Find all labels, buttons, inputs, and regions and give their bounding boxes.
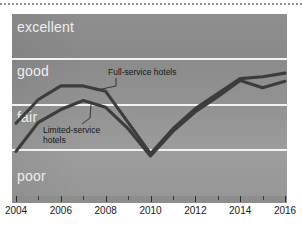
annotation-limited-service-line2: hotels bbox=[43, 136, 100, 146]
x-tick-2011 bbox=[173, 196, 174, 200]
annotation-limited-service: Limited-service hotels bbox=[43, 126, 100, 145]
series-vector-layer bbox=[12, 14, 287, 196]
x-tick-2013 bbox=[218, 196, 219, 200]
x-tick-label-2016: 2016 bbox=[274, 205, 296, 216]
plot-area: excellent good fair poor Full-service ho… bbox=[12, 14, 287, 196]
x-tick-2006 bbox=[61, 196, 62, 202]
annotation-full-service-line1: Full-service hotels bbox=[108, 68, 177, 78]
x-tick-label-2004: 2004 bbox=[5, 205, 27, 216]
x-tick-label-2010: 2010 bbox=[139, 205, 161, 216]
x-axis-labels: 2004200620082010201220142016 bbox=[0, 205, 302, 221]
x-tick-2014 bbox=[240, 196, 241, 202]
x-tick-2016 bbox=[285, 196, 286, 202]
x-tick-label-2008: 2008 bbox=[95, 205, 117, 216]
figure: excellent good fair poor Full-service ho… bbox=[0, 0, 302, 231]
x-tick-2005 bbox=[38, 196, 39, 200]
annotation-full-service: Full-service hotels bbox=[108, 68, 177, 78]
x-tick-2010 bbox=[151, 196, 152, 202]
x-tick-2008 bbox=[106, 196, 107, 202]
x-tick-2012 bbox=[195, 196, 196, 202]
page-dotted-rule bbox=[0, 3, 302, 5]
x-tick-2009 bbox=[128, 196, 129, 200]
x-tick-2007 bbox=[83, 196, 84, 200]
x-tick-label-2014: 2014 bbox=[229, 205, 251, 216]
x-tick-2004 bbox=[16, 196, 17, 202]
leader-line-limited-service bbox=[82, 103, 91, 124]
x-tick-label-2012: 2012 bbox=[184, 205, 206, 216]
x-tick-label-2006: 2006 bbox=[50, 205, 72, 216]
x-tick-2015 bbox=[263, 196, 264, 200]
x-axis bbox=[12, 196, 287, 203]
